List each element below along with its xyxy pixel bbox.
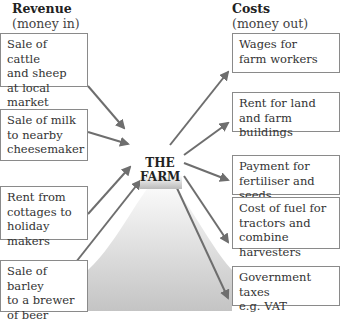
- box-line: Rent from: [7, 190, 82, 205]
- background-hill: [88, 175, 232, 311]
- box-line: farm workers: [239, 52, 334, 67]
- revenue-subtitle: (money in): [12, 16, 80, 31]
- cost-box-fuel: Cost of fuel for tractors and combine ha…: [232, 197, 340, 249]
- box-line: and farm buildings: [239, 111, 334, 140]
- box-line: Government taxes: [239, 270, 334, 299]
- farm-line: FARM: [140, 170, 180, 184]
- farm-line: THE: [140, 156, 180, 170]
- revenue-heading: Revenue (money in): [12, 1, 80, 31]
- arrow-cost-2: [184, 123, 228, 155]
- box-line: Payment for: [239, 159, 334, 174]
- arrow-revenue-2: [88, 132, 128, 144]
- costs-heading: Costs (money out): [232, 1, 308, 31]
- box-line: Rent for land: [239, 96, 334, 111]
- the-farm-label: THE FARM: [140, 156, 180, 184]
- revenue-box-cottages: Rent from cottages to holiday makers: [0, 186, 88, 240]
- arrow-revenue-3: [88, 167, 130, 214]
- box-line: and sheep: [7, 66, 82, 81]
- box-line: cottages to: [7, 205, 82, 220]
- costs-title: Costs: [232, 1, 308, 16]
- box-line: Cost of fuel for: [239, 201, 334, 216]
- box-line: tractors and: [239, 216, 334, 231]
- box-line: Sale of barley: [7, 264, 82, 293]
- box-line: to nearby: [7, 128, 82, 143]
- cost-box-rent: Rent for land and farm buildings: [232, 92, 340, 132]
- revenue-title: Revenue: [12, 1, 80, 16]
- box-line: Wages for: [239, 37, 334, 52]
- box-line: Sale of milk: [7, 113, 82, 128]
- revenue-box-milk: Sale of milk to nearby cheesemaker: [0, 109, 88, 161]
- box-line: of beer: [7, 308, 82, 322]
- cost-box-wages: Wages for farm workers: [232, 33, 340, 73]
- box-line: e.g. VAT: [239, 299, 334, 314]
- cost-box-taxes: Government taxes e.g. VAT: [232, 266, 340, 306]
- box-line: Sale of cattle: [7, 37, 82, 66]
- revenue-box-barley: Sale of barley to a brewer of beer: [0, 260, 88, 312]
- arrow-cost-1: [170, 72, 228, 145]
- costs-subtitle: (money out): [232, 16, 308, 31]
- box-line: cheesemaker: [7, 142, 82, 157]
- cost-box-fertiliser: Payment for fertiliser and seeds: [232, 155, 340, 195]
- arrow-revenue-1: [88, 86, 124, 128]
- revenue-box-cattle: Sale of cattle and sheep at local market: [0, 33, 88, 87]
- box-line: to a brewer: [7, 293, 82, 308]
- arrow-cost-3: [184, 163, 228, 180]
- box-line: holiday makers: [7, 219, 82, 248]
- box-line: combine harvesters: [239, 230, 334, 259]
- box-line: at local market: [7, 81, 82, 110]
